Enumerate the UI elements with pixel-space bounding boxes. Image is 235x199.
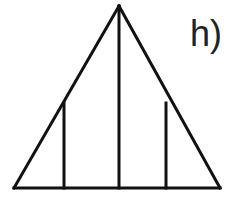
figure-label: h) [190, 14, 222, 54]
